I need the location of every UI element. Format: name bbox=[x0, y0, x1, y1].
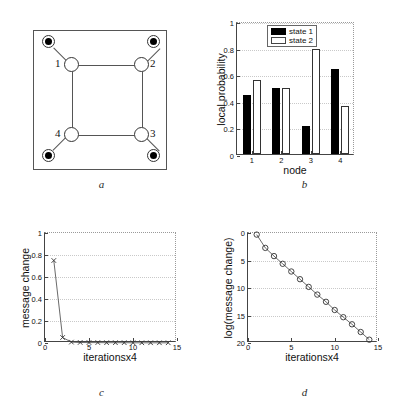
observed-node-4[interactable] bbox=[42, 149, 55, 162]
panel-letter-c: c bbox=[0, 386, 203, 398]
graph-bounding-box: 1 2 3 4 bbox=[33, 30, 167, 170]
node-label-1: 1 bbox=[55, 57, 61, 69]
y-tick-label: 0 bbox=[38, 339, 42, 348]
y-tick-label: 0.2 bbox=[32, 317, 42, 326]
edge-2-3 bbox=[142, 72, 143, 127]
bar-state-2-node-2[interactable] bbox=[282, 88, 290, 155]
node-3[interactable] bbox=[134, 127, 149, 142]
gridline bbox=[237, 50, 353, 51]
bar-state-1-node-1[interactable] bbox=[243, 95, 251, 154]
panel-letter-a: a bbox=[0, 178, 203, 190]
panel-letter-b: b bbox=[203, 178, 406, 190]
bar-state-1-node-2[interactable] bbox=[272, 88, 280, 155]
edge-4-observed bbox=[52, 137, 66, 151]
log-message-change-series bbox=[248, 233, 378, 343]
y-tick-label: 1 bbox=[230, 19, 234, 28]
x-tick-mark bbox=[177, 338, 178, 341]
message-change-series bbox=[45, 233, 177, 343]
observed-node-1[interactable] bbox=[42, 35, 55, 48]
y-tick-mark bbox=[237, 50, 240, 51]
y-tick-mark bbox=[237, 103, 240, 104]
bar-chart-axes: 00.20.40.60.81 1234 state 1 state 2 node… bbox=[236, 22, 354, 155]
observed-node-2[interactable] bbox=[147, 35, 160, 48]
bar-state-2-node-4[interactable] bbox=[341, 106, 349, 154]
bar-state-1-node-4[interactable] bbox=[331, 69, 339, 154]
message-change-xlabel: iterationsx4 bbox=[45, 351, 175, 363]
y-tick-label: 10 bbox=[237, 284, 245, 293]
y-tick-label: 0.8 bbox=[32, 251, 42, 260]
x-tick-mark bbox=[378, 338, 379, 341]
node-label-4: 4 bbox=[55, 127, 61, 139]
y-tick-label: 20 bbox=[237, 339, 245, 348]
panel-d-log-line-chart: 05101520 051015 iterationsx4 log(message… bbox=[203, 206, 406, 412]
panel-c-line-chart: 00.20.40.60.81 051015 iterationsx4 messa… bbox=[0, 206, 203, 412]
legend-label-state-1: state 1 bbox=[289, 27, 313, 36]
log-message-change-xlabel: iterationsx4 bbox=[248, 351, 376, 363]
edge-4-3 bbox=[79, 135, 134, 136]
bar-chart-ylabel: local probability bbox=[215, 23, 227, 156]
bar-chart-legend[interactable]: state 1 state 2 bbox=[267, 25, 317, 47]
y-tick-label: 5 bbox=[241, 256, 245, 265]
bar-state-1-node-3[interactable] bbox=[302, 126, 310, 154]
legend-entry-state-1: state 1 bbox=[271, 27, 313, 36]
observed-node-3[interactable] bbox=[147, 149, 160, 162]
y-tick-label: 0.4 bbox=[32, 295, 42, 304]
gridline bbox=[237, 23, 353, 24]
edge-1-2 bbox=[79, 65, 134, 66]
legend-entry-state-2: state 2 bbox=[271, 36, 313, 45]
panel-letter-d: d bbox=[203, 386, 406, 398]
panel-a-graph: 1 2 3 4 a bbox=[0, 0, 203, 206]
log-message-change-ylabel: log(message change) bbox=[222, 233, 234, 343]
message-change-axes: 00.20.40.60.81 051015 iterationsx4 messa… bbox=[44, 232, 176, 342]
panel-b-bar-chart: 00.20.40.60.81 1234 state 1 state 2 node… bbox=[203, 0, 406, 206]
node-label-2: 2 bbox=[150, 57, 156, 69]
y-tick-label: 0 bbox=[241, 229, 245, 238]
node-label-3: 3 bbox=[150, 127, 156, 139]
edge-1-4 bbox=[72, 72, 73, 127]
node-1[interactable] bbox=[64, 57, 79, 72]
log-message-change-axes: 05101520 051015 iterationsx4 log(message… bbox=[247, 232, 377, 342]
node-4[interactable] bbox=[64, 127, 79, 142]
y-tick-mark bbox=[237, 156, 240, 157]
message-change-ylabel: message change bbox=[19, 233, 31, 343]
y-tick-mark bbox=[237, 76, 240, 77]
y-tick-mark bbox=[237, 129, 240, 130]
legend-swatch-state-2 bbox=[271, 37, 286, 44]
y-tick-label: 0 bbox=[230, 152, 234, 161]
bar-state-2-node-3[interactable] bbox=[312, 49, 320, 154]
y-tick-label: 15 bbox=[237, 311, 245, 320]
figure-root: 1 2 3 4 a 00.20.40.60.81 1234 state 1 st… bbox=[0, 0, 406, 412]
y-tick-mark bbox=[237, 23, 240, 24]
y-tick-label: 0.6 bbox=[32, 273, 42, 282]
bar-chart-xlabel: node bbox=[237, 164, 353, 176]
bar-state-2-node-1[interactable] bbox=[253, 80, 261, 154]
node-2[interactable] bbox=[134, 57, 149, 72]
y-tick-label: 1 bbox=[38, 229, 42, 238]
legend-label-state-2: state 2 bbox=[289, 36, 313, 45]
legend-swatch-state-1 bbox=[271, 28, 286, 35]
